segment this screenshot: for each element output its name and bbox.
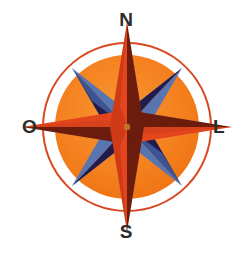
compass-rose-figure: N S O L [0, 0, 252, 256]
direction-label-west: O [22, 117, 37, 136]
compass-center [124, 124, 130, 130]
direction-label-east: L [213, 117, 225, 136]
direction-label-north: N [0, 10, 252, 29]
direction-label-south: S [0, 222, 252, 241]
